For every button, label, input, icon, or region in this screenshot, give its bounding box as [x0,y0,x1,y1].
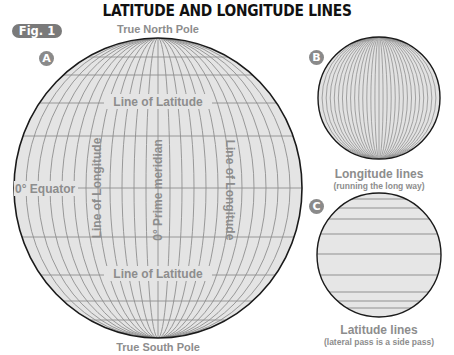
longitude-label-right: Line of Longitude [223,140,237,241]
globe-c [310,193,450,317]
latitude-label-top: Line of Latitude [113,95,203,109]
badge-a: A [39,51,54,66]
globe-b [318,37,440,159]
equator-label: 0° Equator [15,182,75,196]
globes-diagram: Line of Latitude Line of Latitude 0° Equ… [0,0,454,355]
longitude-label-left: Line of Longitude [90,137,104,238]
north-pole-label: True North Pole [117,23,199,35]
globe-b-caption: Longitude lines [335,167,424,181]
badge-c: C [309,199,324,214]
latitude-label-bottom: Line of Latitude [113,267,203,281]
globe-c-caption: Latitude lines [340,323,418,337]
prime-meridian-label: 0° Prime meridian [151,139,165,241]
globe-c-subcaption: (lateral pass is a side pass) [324,337,434,347]
badge-b: B [309,50,324,65]
south-pole-label: True South Pole [116,341,200,353]
globe-b-subcaption: (running the long way) [333,181,424,191]
